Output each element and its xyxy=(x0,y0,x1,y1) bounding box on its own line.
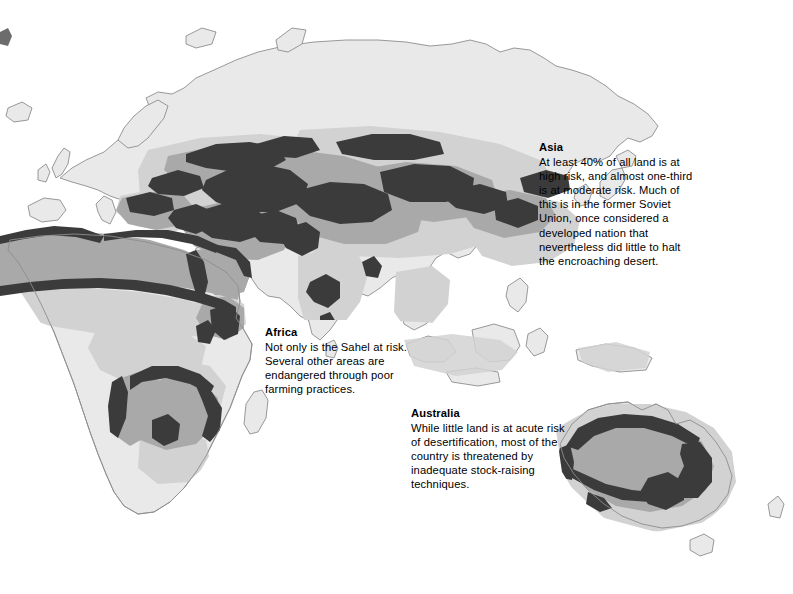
callout-africa: Africa Not only is the Sahel at risk. Se… xyxy=(265,325,417,396)
callout-asia-body: At least 40% of all land is at high risk… xyxy=(539,155,697,269)
callout-australia-body: While little land is at acute risk of de… xyxy=(411,421,573,492)
callout-africa-title: Africa xyxy=(265,325,417,340)
callout-africa-body: Not only is the Sahel at risk. Several o… xyxy=(265,340,417,397)
callout-australia-title: Australia xyxy=(411,406,573,421)
callout-asia-title: Asia xyxy=(539,140,697,155)
callout-asia: Asia At least 40% of all land is at high… xyxy=(539,140,697,268)
callout-australia: Australia While little land is at acute … xyxy=(411,406,573,492)
world-map-graphic xyxy=(0,0,793,594)
map-figure: Asia At least 40% of all land is at high… xyxy=(0,0,793,594)
